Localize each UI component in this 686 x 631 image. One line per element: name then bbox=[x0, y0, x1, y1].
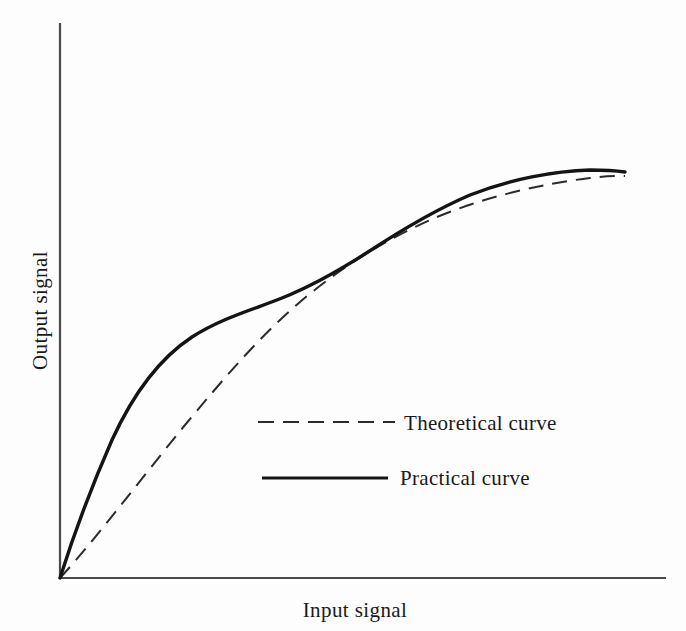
theoretical-curve-path bbox=[60, 176, 625, 578]
y-axis-label: Output signal bbox=[28, 211, 53, 411]
practical-curve-path bbox=[60, 170, 625, 578]
chart-canvas bbox=[0, 0, 686, 631]
legend-label-theoretical: Theoretical curve bbox=[404, 411, 557, 436]
legend-label-practical: Practical curve bbox=[400, 466, 530, 491]
chart-figure: Output signal Input signal Theoretical c… bbox=[0, 0, 686, 631]
x-axis-label: Input signal bbox=[255, 598, 455, 623]
